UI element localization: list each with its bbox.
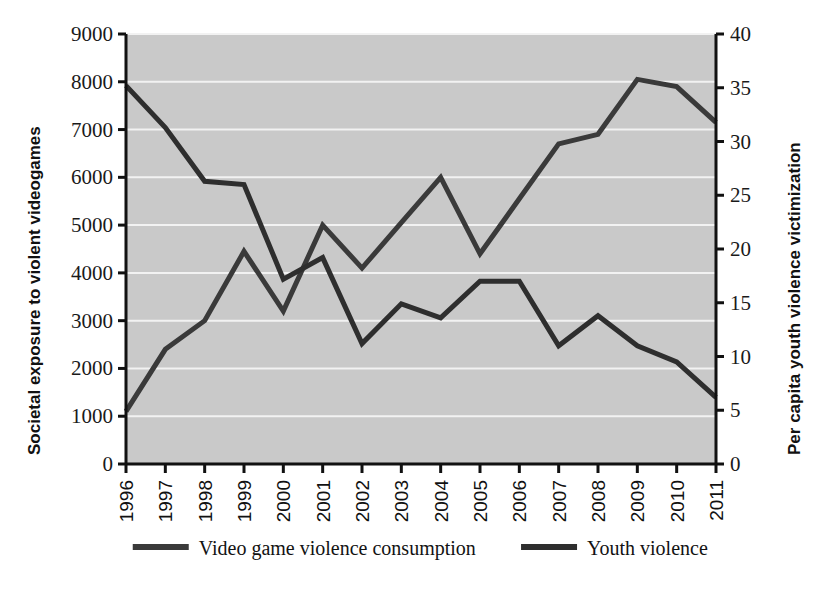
right-axis-tick-label: 25 bbox=[730, 183, 751, 207]
right-axis-tick-label: 0 bbox=[730, 452, 741, 476]
left-axis-tick-label: 0 bbox=[103, 452, 114, 476]
x-axis-tick-label: 1998 bbox=[195, 480, 216, 522]
x-axis-tick-label: 2001 bbox=[313, 480, 334, 522]
x-axis-tick-label: 1997 bbox=[155, 480, 176, 522]
right-axis-tick-label: 35 bbox=[730, 76, 751, 100]
plot-area bbox=[126, 34, 716, 464]
legend-label: Video game violence consumption bbox=[199, 537, 476, 560]
left-axis-tick-label: 5000 bbox=[71, 213, 113, 237]
x-axis-tick-label: 2005 bbox=[470, 480, 491, 522]
x-axis-tick-label: 2003 bbox=[391, 480, 412, 522]
left-axis-tick-label: 7000 bbox=[71, 118, 113, 142]
x-axis-tick-label: 1996 bbox=[116, 480, 137, 522]
left-axis-tick-label: 9000 bbox=[71, 22, 113, 46]
x-axis-tick-label: 2006 bbox=[509, 480, 530, 522]
x-axis-tick-label: 2011 bbox=[706, 480, 727, 521]
left-axis-tick-label: 8000 bbox=[71, 70, 113, 94]
chart-container: 0100020003000400050006000700080009000 05… bbox=[0, 0, 828, 598]
x-axis-tick-label: 1999 bbox=[234, 480, 255, 522]
right-axis-tick-label: 30 bbox=[730, 130, 751, 154]
right-axis-tick-label: 40 bbox=[730, 22, 751, 46]
x-axis-tick-label: 2009 bbox=[627, 480, 648, 522]
left-axis-tick-label: 1000 bbox=[71, 404, 113, 428]
right-axis-tick-label: 10 bbox=[730, 345, 751, 369]
legend-label: Youth violence bbox=[587, 537, 708, 559]
x-axis-tick-label: 2007 bbox=[549, 480, 570, 522]
y2-axis-title: Per capita youth violence victimization bbox=[785, 142, 804, 455]
left-axis-tick-label: 6000 bbox=[71, 165, 113, 189]
plot-area-background bbox=[126, 34, 716, 464]
x-axis-tick-label: 2010 bbox=[667, 480, 688, 522]
right-axis-tick-label: 20 bbox=[730, 237, 751, 261]
x-axis-tick-label: 2002 bbox=[352, 480, 373, 522]
x-axis-tick-label: 2008 bbox=[588, 480, 609, 522]
x-axis-tick-label: 2000 bbox=[273, 480, 294, 522]
chart-legend: Video game violence consumptionYouth vio… bbox=[133, 537, 708, 560]
y-axis-title: Societal exposure to violent videogames bbox=[25, 126, 44, 455]
x-axis-tick-label: 2004 bbox=[431, 480, 452, 523]
line-chart: 0100020003000400050006000700080009000 05… bbox=[0, 0, 828, 598]
right-axis-tick-label: 15 bbox=[730, 291, 751, 315]
left-axis-tick-label: 4000 bbox=[71, 261, 113, 285]
left-axis-tick-label: 3000 bbox=[71, 309, 113, 333]
left-axis-tick-label: 2000 bbox=[71, 356, 113, 380]
right-axis-tick-label: 5 bbox=[730, 398, 741, 422]
